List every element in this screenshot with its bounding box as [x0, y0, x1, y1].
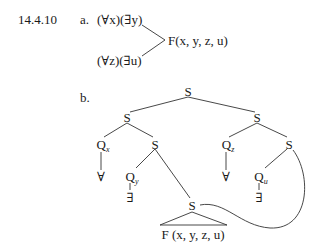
- node-right-s: S: [253, 111, 260, 124]
- edge-right-inner: [257, 123, 287, 137]
- branch-line-top: [142, 25, 165, 40]
- edge-left-qx: [104, 123, 127, 137]
- node-exists-u: ∃: [255, 191, 262, 204]
- edge-right-qz: [229, 123, 257, 137]
- edge-inner-bottom: [155, 149, 190, 198]
- part-a-label: a.: [80, 13, 89, 26]
- edge-inner-qu: [265, 149, 287, 168]
- node-bottom-s: S: [188, 199, 195, 212]
- exercise-number: 14.4.10: [18, 13, 57, 26]
- node-root-s: S: [184, 85, 191, 98]
- edge-left-inner: [127, 123, 153, 137]
- quantifier-prefix-top: (∀x)(∃y): [97, 13, 142, 26]
- node-exists-y: ∃: [126, 191, 133, 204]
- branch-line-bottom: [142, 40, 165, 56]
- triangle-right: [192, 212, 227, 225]
- edge-root-left: [130, 97, 188, 112]
- node-left-inner-s: S: [151, 138, 158, 151]
- node-q-y: Qy: [126, 170, 139, 183]
- node-q-u: Qu: [254, 170, 267, 183]
- edge-root-right: [188, 97, 255, 112]
- node-forall-z: ∀: [222, 170, 230, 183]
- formula-a: F(x, y, z, u): [168, 34, 228, 47]
- node-q-z: Qz: [222, 138, 235, 151]
- node-forall-x: ∀: [97, 170, 105, 183]
- quantifier-prefix-bottom: (∀z)(∃u): [97, 54, 141, 67]
- triangle-left: [160, 212, 192, 225]
- part-b-label: b.: [80, 91, 90, 104]
- node-q-x: Qx: [97, 138, 110, 151]
- node-left-s: S: [123, 111, 130, 124]
- node-right-inner-s: S: [285, 138, 292, 151]
- binding-curve: [200, 150, 305, 228]
- formula-b: F (x, y, z, u): [161, 228, 224, 241]
- diagram-lines: [0, 0, 317, 243]
